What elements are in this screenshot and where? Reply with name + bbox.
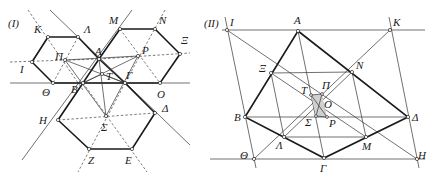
point-k <box>46 35 49 38</box>
label-o: Ο <box>157 88 165 100</box>
point-n <box>350 70 353 73</box>
point-sigma <box>104 114 107 117</box>
label-gamma: Γ <box>125 69 133 81</box>
label-t: Τ <box>301 84 308 96</box>
point-gamma <box>123 81 126 84</box>
point-pi <box>321 93 324 96</box>
point-rho <box>136 54 139 57</box>
figure-2-label: (II) <box>204 17 219 30</box>
label-sigma: Σ <box>100 121 108 133</box>
point-theta <box>252 157 255 160</box>
point-a <box>296 29 299 32</box>
point-t <box>310 94 313 97</box>
label-a: Α <box>94 45 102 57</box>
point-e <box>130 147 133 150</box>
geometry-figures: (I) Κ Λ Ι Θ Π Α Τ Β Γ Μ Ν Ξ Ρ Ο Η Σ Δ Ζ … <box>0 0 435 181</box>
diagram-canvas: (I) Κ Λ Ι Θ Π Α Τ Β Γ Μ Ν Ξ Ρ Ο Η Σ Δ Ζ … <box>0 0 435 181</box>
label-xi: Ξ <box>181 34 188 46</box>
label-b: Β <box>234 111 241 123</box>
point-t <box>100 72 103 75</box>
point-lambda <box>76 35 79 38</box>
label-n: Ν <box>355 59 364 71</box>
point-z <box>87 147 90 150</box>
label-n: Ν <box>158 14 167 26</box>
label-gamma: Γ <box>319 162 327 174</box>
label-b: Β <box>71 83 78 95</box>
point-xi <box>269 71 272 74</box>
line-rho-sigma <box>106 56 138 116</box>
point-rho <box>326 116 329 119</box>
label-k: Κ <box>33 23 42 35</box>
label-lambda: Λ <box>275 139 283 151</box>
point-b <box>243 115 246 118</box>
label-theta: Θ <box>240 149 248 161</box>
label-z: Ζ <box>88 154 95 166</box>
label-rho: Ρ <box>141 44 149 56</box>
label-a: Α <box>293 14 301 26</box>
point-lambda <box>282 135 285 138</box>
figure-1-label: (I) <box>8 17 19 30</box>
figure-1: (I) Κ Λ Ι Θ Π Α Τ Β Γ Μ Ν Ξ Ρ Ο Η Σ Δ Ζ … <box>8 10 190 172</box>
point-m <box>364 135 367 138</box>
figure-2: (II) Ι Α Κ Ξ Ν Τ Π Ο Β Δ Σ Ρ Λ Μ Θ Γ Η <box>204 14 427 174</box>
line-xi-lambda <box>271 73 284 137</box>
point-gamma <box>322 156 325 159</box>
label-delta: Δ <box>161 102 168 114</box>
point-n <box>153 27 156 30</box>
label-pi: Π <box>321 79 331 91</box>
label-o: Ο <box>324 98 332 110</box>
label-m: Μ <box>108 14 119 26</box>
label-i: Ι <box>229 16 235 28</box>
point-o <box>158 81 161 84</box>
label-k: Κ <box>392 16 401 28</box>
label-h: Η <box>38 114 48 126</box>
line-right-k-h <box>389 17 419 168</box>
label-h: Η <box>417 149 427 161</box>
point-h <box>56 118 59 121</box>
point-theta <box>51 81 54 84</box>
label-xi: Ξ <box>259 62 266 74</box>
label-t: Τ <box>106 70 113 82</box>
point-delta <box>406 115 409 118</box>
point-m <box>118 27 121 30</box>
point-a <box>97 57 100 60</box>
quadrilateral-a-delta-gamma-b <box>245 31 408 158</box>
label-theta: Θ <box>42 86 50 98</box>
label-m: Μ <box>361 140 372 152</box>
label-lambda: Λ <box>83 23 91 35</box>
label-pi: Π <box>54 50 64 62</box>
label-sigma: Σ <box>304 116 312 128</box>
point-i <box>225 28 228 31</box>
point-k <box>388 28 391 31</box>
label-delta: Δ <box>411 111 418 123</box>
label-e: Ε <box>124 154 132 166</box>
line-left-i-theta <box>225 17 256 168</box>
line-xi-n <box>271 72 352 73</box>
label-i: Ι <box>19 63 25 75</box>
point-xi <box>178 52 181 55</box>
label-rho: Ρ <box>328 117 336 129</box>
point-i <box>30 60 33 63</box>
point-pi <box>63 58 66 61</box>
point-delta <box>153 111 156 114</box>
point-b <box>81 81 84 84</box>
point-sigma <box>315 115 318 118</box>
